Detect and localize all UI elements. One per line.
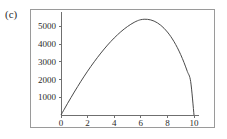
plot-frame-border [30,9,215,128]
figure-root: (c) 10002000300040005000 0246810 [0,0,227,139]
panel-label: (c) [5,8,17,21]
